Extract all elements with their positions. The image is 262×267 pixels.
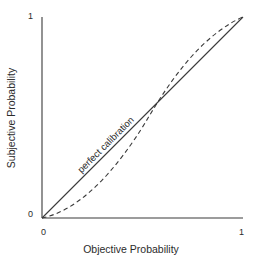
x-axis-tick-1: 1 — [239, 228, 244, 237]
plot-canvas: perfect calibration — [0, 0, 262, 267]
y-axis-title-container: Subjective Probability — [2, 17, 20, 218]
x-axis-title: Objective Probability — [0, 243, 262, 255]
perfect-calibration-line — [42, 17, 243, 218]
perfect-calibration-annotation: perfect calibration — [75, 114, 136, 175]
x-axis-tick-0: 0 — [41, 228, 46, 237]
y-axis-tick-1: 1 — [28, 12, 33, 21]
y-axis-title: Subjective Probability — [5, 67, 17, 167]
calibration-chart-figure: perfect calibration 1 0 0 1 Objective Pr… — [0, 0, 262, 267]
y-axis-tick-0: 0 — [28, 210, 33, 219]
